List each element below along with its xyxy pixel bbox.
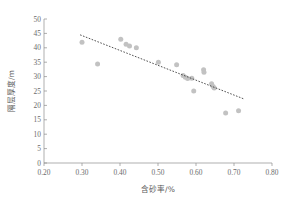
chart-figure: 05101520253035404550 0.200.300.400.500.6… — [0, 0, 295, 201]
scatter-point — [191, 89, 196, 94]
scatter-point — [118, 37, 123, 42]
y-tick-label: 20 — [34, 101, 42, 110]
scatter-point — [80, 40, 85, 45]
x-tick-label: 0.50 — [152, 168, 165, 177]
y-tick-label: 40 — [34, 43, 42, 52]
scatter-point — [156, 60, 161, 65]
y-tick-label: 10 — [34, 130, 42, 139]
x-tick-label: 0.40 — [114, 168, 127, 177]
y-tick-label: 25 — [34, 87, 42, 96]
axes — [44, 19, 272, 163]
x-tick-label: 0.30 — [76, 168, 89, 177]
x-tick-label: 0.20 — [38, 168, 51, 177]
y-tick-label: 45 — [34, 29, 42, 38]
scatter-point — [201, 70, 206, 75]
x-tick-label: 0.80 — [266, 168, 279, 177]
y-tick-label: 15 — [34, 115, 42, 124]
y-tick-label: 0 — [37, 159, 41, 168]
y-tick-label: 5 — [37, 144, 41, 153]
scatter-point — [95, 61, 100, 66]
scatter-point — [223, 110, 228, 115]
x-tick-label: 0.70 — [228, 168, 241, 177]
scatter-point — [236, 108, 241, 113]
scatter-point — [134, 45, 139, 50]
y-tick-label: 50 — [34, 15, 42, 24]
x-axis-ticks: 0.200.300.400.500.600.700.80 — [38, 163, 279, 177]
y-tick-label: 35 — [34, 58, 42, 67]
y-axis-ticks: 05101520253035404550 — [34, 15, 47, 168]
scatter-plot-svg: 05101520253035404550 0.200.300.400.500.6… — [0, 0, 295, 201]
trend-line-group — [80, 35, 243, 99]
x-axis-title: 含砂率/% — [141, 184, 175, 194]
x-tick-label: 0.60 — [190, 168, 203, 177]
y-axis-title: 隔层厚度/m — [6, 70, 16, 112]
scatter-point — [174, 62, 179, 67]
data-points — [80, 37, 242, 116]
trend-line — [80, 35, 243, 99]
scatter-point — [127, 44, 132, 49]
y-tick-label: 30 — [34, 72, 42, 81]
